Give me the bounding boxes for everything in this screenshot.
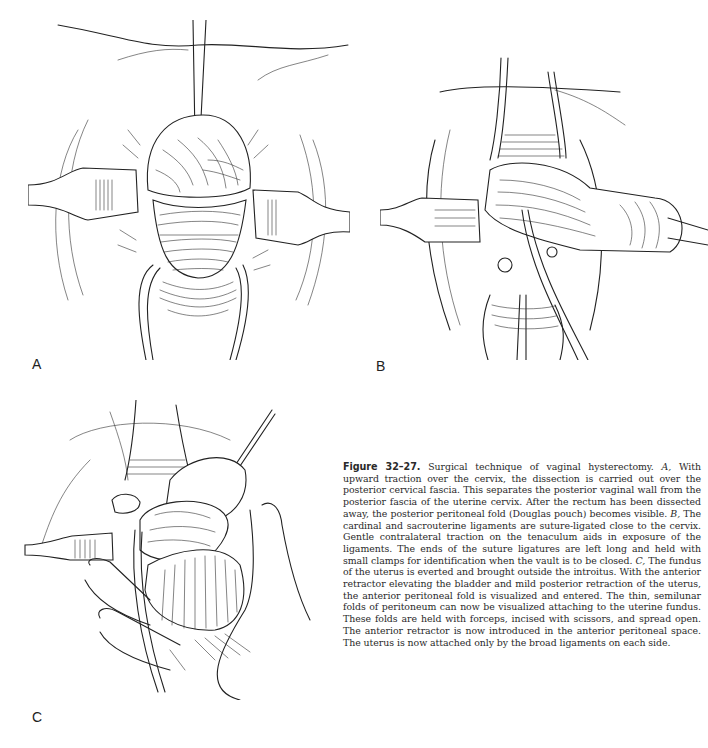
caption-intro: Surgical technique of vaginal hysterecto… — [428, 461, 661, 472]
illustration-panel-b — [380, 30, 708, 360]
surgical-drawing-b — [380, 30, 708, 360]
caption-panel-c-text: The fundus of the uterus is everted and … — [343, 555, 701, 648]
surgical-drawing-c — [0, 400, 340, 700]
figure-caption: Figure 32–27. Surgical technique of vagi… — [343, 461, 701, 648]
illustration-panel-c — [0, 400, 340, 700]
panel-label-c: C — [32, 709, 42, 725]
illustration-panel-a — [28, 20, 350, 360]
caption-panel-b-ref: B, — [670, 508, 680, 519]
figure-number: Figure 32–27. — [343, 461, 420, 472]
caption-panel-a-ref: A, — [662, 461, 672, 472]
surgical-drawing-a — [28, 20, 350, 360]
panel-label-b: B — [376, 358, 385, 374]
panel-label-a: A — [32, 356, 41, 372]
caption-panel-c-ref: C, — [636, 555, 646, 566]
